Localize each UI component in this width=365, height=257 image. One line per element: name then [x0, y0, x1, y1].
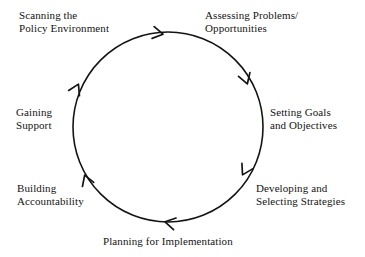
stage-label-assessing-line-1: Assessing Problems/	[205, 9, 298, 22]
stage-label-gaining-line-2: Support	[16, 119, 52, 132]
stage-label-accountability: Building Accountability	[17, 182, 84, 208]
stage-label-planning: Planning for Implementation	[103, 235, 233, 248]
stage-label-gaining-line-1: Gaining	[16, 106, 52, 119]
policy-cycle-diagram: Scanning the Policy Environment Assessin…	[0, 0, 365, 257]
stage-label-strategies: Developing and Selecting Strategies	[256, 182, 345, 208]
stage-label-strategies-line-2: Selecting Strategies	[256, 195, 345, 208]
stage-label-assessing: Assessing Problems/ Opportunities	[205, 9, 298, 35]
stage-label-scanning-line-1: Scanning the	[19, 9, 109, 22]
stage-label-goals: Setting Goals and Objectives	[270, 106, 337, 132]
stage-label-assessing-line-2: Opportunities	[205, 22, 298, 35]
stage-label-strategies-line-1: Developing and	[256, 182, 345, 195]
stage-label-goals-line-2: and Objectives	[270, 119, 337, 132]
stage-label-accountability-line-2: Accountability	[17, 195, 84, 208]
cycle-circle	[73, 32, 263, 222]
arrow-bottom-icon	[164, 216, 176, 230]
stage-label-scanning: Scanning the Policy Environment	[19, 9, 109, 35]
stage-label-gaining: Gaining Support	[16, 106, 52, 132]
stage-label-goals-line-1: Setting Goals	[270, 106, 337, 119]
stage-label-planning-line-1: Planning for Implementation	[103, 235, 233, 248]
stage-label-scanning-line-2: Policy Environment	[19, 22, 109, 35]
stage-label-accountability-line-1: Building	[17, 182, 84, 195]
